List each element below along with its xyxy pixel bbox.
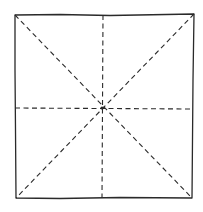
diagonal-tr-bl [16,14,194,198]
diagonal-tl-br [15,15,192,198]
horizontal-midline [15,108,193,109]
fold-diagram [0,0,203,212]
center-point [100,106,103,109]
